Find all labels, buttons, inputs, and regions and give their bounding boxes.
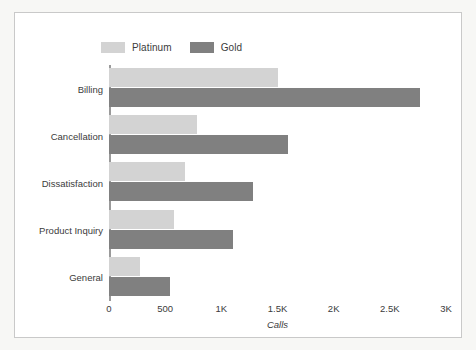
- x-axis-tick: 500: [157, 303, 173, 314]
- bar-gold[interactable]: [109, 88, 420, 107]
- y-axis-category-labels: BillingCancellationDissatisfactionProduc…: [21, 65, 103, 301]
- x-axis-tick-labels: 05001K1.5K2K2.5K3K: [109, 301, 446, 319]
- y-axis-label: General: [23, 272, 103, 283]
- x-axis-tick: 2.5K: [380, 303, 400, 314]
- chart-card: Platinum Gold BillingCancellationDissati…: [14, 12, 462, 338]
- legend-label-gold: Gold: [221, 42, 243, 53]
- bar-platinum[interactable]: [109, 257, 140, 276]
- bar-gold[interactable]: [109, 230, 233, 249]
- bar-platinum[interactable]: [109, 68, 278, 87]
- legend-item-gold[interactable]: Gold: [190, 42, 243, 53]
- legend-item-platinum[interactable]: Platinum: [101, 42, 172, 53]
- bar-group: [109, 112, 446, 159]
- legend-swatch-gold: [190, 42, 214, 53]
- bar-group: [109, 207, 446, 254]
- x-axis-title: Calls: [109, 319, 446, 330]
- x-axis-tick: 1.5K: [268, 303, 288, 314]
- y-axis-label: Product Inquiry: [23, 225, 103, 236]
- x-axis-tick: 2K: [328, 303, 340, 314]
- legend-swatch-platinum: [101, 42, 125, 53]
- y-axis-label: Dissatisfaction: [23, 178, 103, 189]
- y-axis-label: Billing: [23, 83, 103, 94]
- x-axis-tick: 0: [106, 303, 111, 314]
- bar-platinum[interactable]: [109, 115, 197, 134]
- x-axis-tick: 1K: [216, 303, 228, 314]
- bar-gold[interactable]: [109, 135, 288, 154]
- bar-platinum[interactable]: [109, 210, 174, 229]
- chart-legend: Platinum Gold: [101, 39, 242, 55]
- plot-area: [109, 65, 446, 301]
- bar-group: [109, 254, 446, 301]
- legend-label-platinum: Platinum: [132, 42, 172, 53]
- x-axis-tick: 3K: [440, 303, 452, 314]
- y-axis-label: Cancellation: [23, 130, 103, 141]
- bar-platinum[interactable]: [109, 162, 185, 181]
- bar-gold[interactable]: [109, 182, 253, 201]
- bar-group: [109, 159, 446, 206]
- bar-group: [109, 65, 446, 112]
- bar-gold[interactable]: [109, 277, 170, 296]
